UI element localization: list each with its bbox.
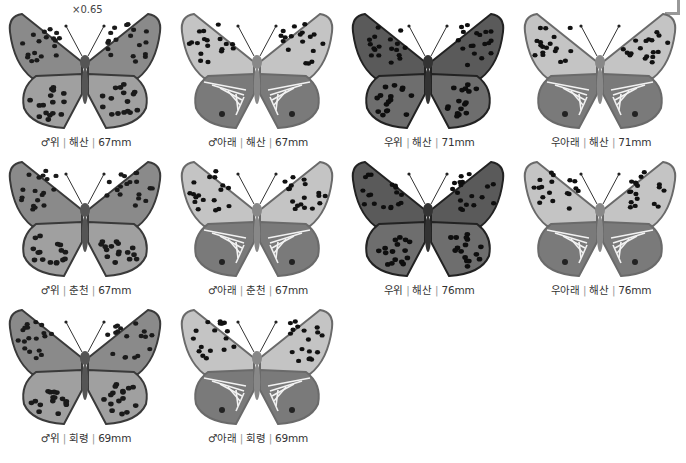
separator: | bbox=[612, 284, 615, 296]
separator: | bbox=[63, 284, 66, 296]
wing-side: 위 bbox=[393, 284, 403, 296]
separator: | bbox=[269, 136, 272, 148]
sex-symbol: ♂ bbox=[41, 136, 50, 148]
specimen-caption: ♂아래|춘천|67mm bbox=[172, 282, 344, 297]
separator: | bbox=[92, 284, 95, 296]
separator: | bbox=[583, 284, 586, 296]
separator: | bbox=[406, 284, 409, 296]
sex-symbol: ♂ bbox=[41, 284, 50, 296]
locality: 해산 bbox=[589, 284, 609, 296]
butterfly-upperside-image bbox=[345, 4, 511, 132]
separator: | bbox=[269, 284, 272, 296]
wing-side: 아래 bbox=[217, 284, 237, 296]
locality: 춘천 bbox=[246, 284, 266, 296]
wingspan: 76mm bbox=[618, 284, 651, 296]
scale-label: ×0.65 bbox=[72, 4, 103, 15]
separator: | bbox=[240, 136, 243, 148]
butterfly-underside-image bbox=[174, 152, 340, 280]
butterfly-underside-image bbox=[517, 152, 683, 280]
separator: | bbox=[612, 136, 615, 148]
locality: 해산 bbox=[246, 136, 266, 148]
butterfly-underside-image bbox=[517, 4, 683, 132]
locality: 해산 bbox=[412, 136, 432, 148]
separator: | bbox=[240, 432, 243, 444]
separator: | bbox=[63, 136, 66, 148]
sex-symbol: ♂ bbox=[208, 284, 217, 296]
separator: | bbox=[92, 136, 95, 148]
wing-side: 위 bbox=[50, 284, 60, 296]
specimen-cell: 우아래|해산|71mm bbox=[515, 0, 686, 150]
wingspan: 76mm bbox=[441, 284, 474, 296]
specimen-caption: 우아래|해산|71mm bbox=[515, 134, 686, 149]
specimen-caption: ♂아래|회령|69mm bbox=[172, 430, 344, 445]
sex-symbol: 우 bbox=[384, 284, 394, 296]
specimen-cell: 우위|해산|76mm bbox=[343, 148, 515, 298]
wingspan: 67mm bbox=[98, 284, 131, 296]
separator: | bbox=[406, 136, 409, 148]
wing-side: 아래 bbox=[560, 136, 580, 148]
specimen-caption: ♂위|해산|67mm bbox=[0, 134, 172, 149]
sex-symbol: 우 bbox=[551, 136, 561, 148]
locality: 회령 bbox=[246, 432, 266, 444]
specimen-cell: ♂위|춘천|67mm bbox=[0, 148, 172, 298]
sex-symbol: 우 bbox=[551, 284, 561, 296]
wingspan: 67mm bbox=[275, 136, 308, 148]
specimen-caption: 우위|해산|71mm bbox=[343, 134, 515, 149]
specimen-caption: 우아래|해산|76mm bbox=[515, 282, 686, 297]
separator: | bbox=[240, 284, 243, 296]
specimen-caption: ♂위|춘천|67mm bbox=[0, 282, 172, 297]
specimen-cell: ♂아래|춘천|67mm bbox=[172, 148, 344, 298]
specimen-cell: 우위|해산|71mm bbox=[343, 0, 515, 150]
specimen-caption: 우위|해산|76mm bbox=[343, 282, 515, 297]
wing-side: 위 bbox=[393, 136, 403, 148]
butterfly-upperside-image bbox=[345, 152, 511, 280]
specimen-cell: ♂위|회령|69mm bbox=[0, 296, 172, 446]
separator: | bbox=[435, 136, 438, 148]
butterfly-underside-image bbox=[174, 4, 340, 132]
specimen-cell: 우아래|해산|76mm bbox=[515, 148, 686, 298]
wing-side: 아래 bbox=[217, 136, 237, 148]
locality: 회령 bbox=[69, 432, 89, 444]
sex-symbol: ♂ bbox=[208, 432, 217, 444]
wingspan: 69mm bbox=[98, 432, 131, 444]
locality: 해산 bbox=[412, 284, 432, 296]
wing-side: 아래 bbox=[560, 284, 580, 296]
specimen-cell: ×0.65♂위|해산|67mm bbox=[0, 0, 172, 150]
separator: | bbox=[63, 432, 66, 444]
wing-side: 아래 bbox=[217, 432, 237, 444]
specimen-cell: ♂아래|회령|69mm bbox=[172, 296, 344, 446]
wing-side: 위 bbox=[50, 432, 60, 444]
wingspan: 69mm bbox=[275, 432, 308, 444]
sex-symbol: ♂ bbox=[41, 432, 50, 444]
wingspan: 67mm bbox=[98, 136, 131, 148]
wingspan: 67mm bbox=[275, 284, 308, 296]
locality: 해산 bbox=[589, 136, 609, 148]
sex-symbol: ♂ bbox=[208, 136, 217, 148]
wingspan: 71mm bbox=[441, 136, 474, 148]
specimen-cell: ♂아래|해산|67mm bbox=[172, 0, 344, 150]
butterfly-upperside-image bbox=[2, 4, 168, 132]
specimen-caption: ♂아래|해산|67mm bbox=[172, 134, 344, 149]
wingspan: 71mm bbox=[618, 136, 651, 148]
separator: | bbox=[583, 136, 586, 148]
butterfly-underside-image bbox=[174, 300, 340, 428]
separator: | bbox=[435, 284, 438, 296]
butterfly-upperside-image bbox=[2, 152, 168, 280]
locality: 해산 bbox=[69, 136, 89, 148]
sex-symbol: 우 bbox=[384, 136, 394, 148]
butterfly-upperside-image bbox=[2, 300, 168, 428]
separator: | bbox=[269, 432, 272, 444]
wing-side: 위 bbox=[50, 136, 60, 148]
specimen-caption: ♂위|회령|69mm bbox=[0, 430, 172, 445]
separator: | bbox=[92, 432, 95, 444]
locality: 춘천 bbox=[69, 284, 89, 296]
